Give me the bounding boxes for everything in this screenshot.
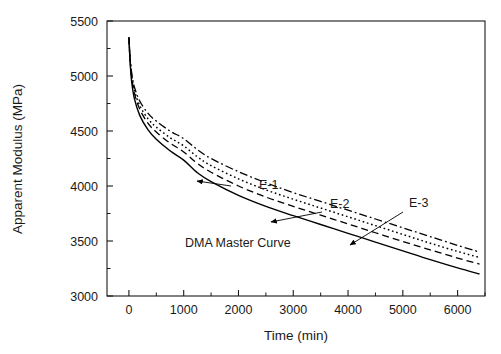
x-tick-label: 6000: [444, 303, 472, 317]
y-tick-label: 4500: [70, 125, 98, 139]
x-tick-label: 0: [125, 303, 132, 317]
x-axis-tick-labels: 0100020003000400050006000: [125, 303, 471, 317]
x-tick-label: 5000: [389, 303, 417, 317]
annotation-label: E-3: [409, 196, 429, 210]
annotation-leader-arrow: [271, 212, 322, 222]
y-axis-ticks: [107, 21, 113, 296]
annotation-label: E-2: [330, 197, 350, 211]
annotation-label: E-1: [259, 178, 279, 192]
x-tick-label: 1000: [170, 303, 198, 317]
x-axis-title: Time (min): [264, 328, 328, 343]
curve-annotations: E-1E-2E-3DMA Master Curve: [185, 178, 429, 250]
data-series-group: [129, 38, 480, 275]
y-axis-tick-labels: 300035004000450050005500: [70, 15, 98, 304]
x-tick-label: 4000: [334, 303, 362, 317]
x-tick-label: 3000: [279, 303, 307, 317]
x-tick-label: 2000: [225, 303, 253, 317]
annotation-label: DMA Master Curve: [185, 236, 291, 250]
series-line: [129, 38, 480, 258]
series-line: [129, 38, 480, 265]
y-tick-label: 3500: [70, 235, 98, 249]
y-tick-label: 5500: [70, 15, 98, 29]
y-tick-label: 5000: [70, 70, 98, 84]
x-axis-ticks: [129, 290, 485, 296]
annotation-leader-arrow: [350, 212, 403, 245]
apparent-modulus-chart: 0100020003000400050006000 30003500400045…: [0, 0, 501, 354]
series-line: [129, 38, 480, 275]
y-tick-label: 3000: [70, 290, 98, 304]
chart-canvas: 0100020003000400050006000 30003500400045…: [0, 0, 501, 354]
y-tick-label: 4000: [70, 180, 98, 194]
y-axis-title: Apparent Modulus (MPa): [10, 84, 25, 234]
plot-frame: [107, 21, 485, 296]
annotation-leader-arrow: [197, 181, 231, 186]
plot-border: [107, 21, 485, 296]
